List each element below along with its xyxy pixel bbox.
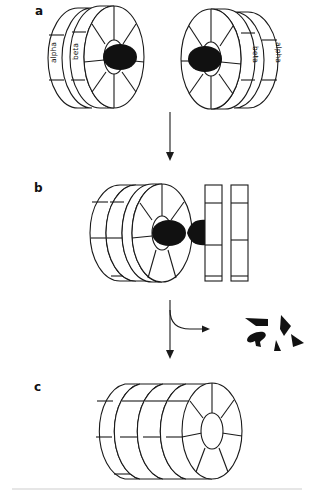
substrate-blob-right xyxy=(188,46,222,72)
panel-c-assembled-complex xyxy=(96,383,242,479)
panel-a-right-stack: beta alpha xyxy=(181,9,283,109)
alpha-label-right: alpha xyxy=(274,42,283,63)
substrate-blob-b-inner xyxy=(152,220,186,246)
beta-label-left: beta xyxy=(71,43,80,60)
panel-label-a: a xyxy=(35,4,43,18)
separate-ring-1 xyxy=(205,185,222,281)
substrate-blob-left xyxy=(103,44,137,70)
caption-fragment xyxy=(12,488,302,490)
panel-label-b: b xyxy=(34,181,43,195)
central-pore xyxy=(201,413,223,449)
diagram-canvas: a alpha beta xyxy=(0,0,312,493)
peptide-fragments xyxy=(245,315,304,351)
alpha-label-left: alpha xyxy=(49,42,58,63)
panel-b-assembly xyxy=(90,184,248,282)
arrow-a-to-b xyxy=(166,112,174,161)
beta-label-right: beta xyxy=(251,46,260,63)
separate-ring-2 xyxy=(231,185,248,281)
panel-a-left-stack: alpha beta xyxy=(48,6,144,108)
arrow-b-to-c xyxy=(166,300,210,359)
branch-arrow xyxy=(170,310,203,329)
panel-label-c: c xyxy=(34,380,41,394)
